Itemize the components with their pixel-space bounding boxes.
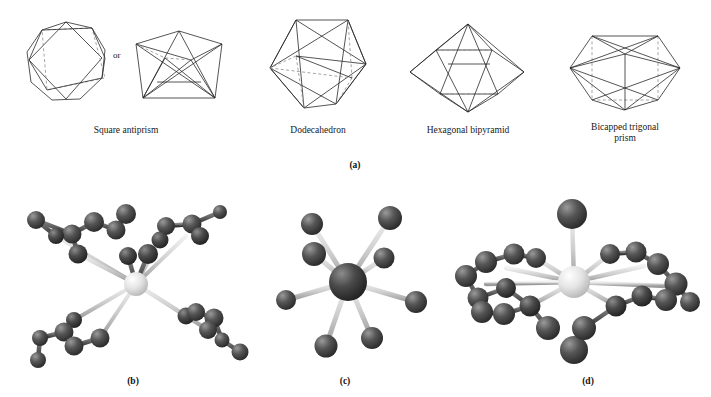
molecule-panel-c: [268, 196, 434, 368]
panel-label-a: (a): [325, 160, 385, 170]
molecule-panel-d: [444, 192, 706, 370]
bicapped-trigonal-prism-view: [566, 28, 684, 112]
panel-label-c: (c): [315, 376, 375, 386]
panel-label-d: (d): [558, 376, 618, 386]
square-antiprism-side-view: [133, 28, 225, 104]
square-antiprism-top-view: [24, 18, 108, 104]
molecule-panel-b: [8, 188, 258, 370]
central-metal-atom-d: [558, 266, 590, 298]
hexagonal-bipyramid-label: Hexagonal bipyramid: [404, 125, 532, 136]
polyhedra-or-connector: or: [113, 50, 121, 60]
central-metal-atom-c: [329, 263, 367, 301]
dodecahedron-label: Dodecahedron: [258, 125, 378, 136]
bicapped-trigonal-prism-label-line2: prism: [614, 133, 636, 143]
bicapped-trigonal-prism-label: Bicapped trigonal prism: [566, 122, 684, 144]
hexagonal-bipyramid-view: [406, 20, 528, 116]
square-antiprism-label: Square antiprism: [60, 125, 192, 136]
central-metal-atom-b: [124, 272, 148, 296]
figure-root: or Square antiprism: [0, 0, 711, 397]
bicapped-trigonal-prism-label-line1: Bicapped trigonal: [591, 122, 659, 132]
dodecahedron-view: [266, 16, 370, 110]
panel-label-b: (b): [103, 376, 163, 386]
